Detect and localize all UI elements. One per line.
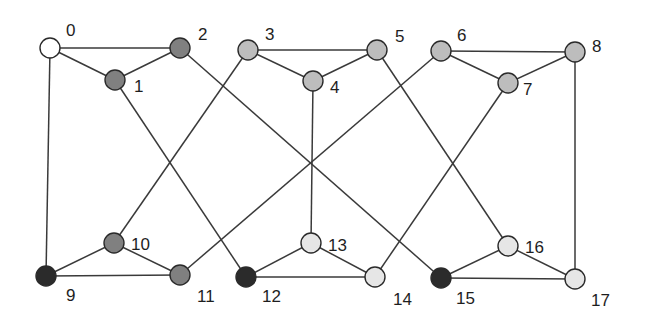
node-label-14: 14 — [393, 290, 412, 309]
node-13 — [301, 233, 321, 253]
node-3 — [238, 40, 258, 60]
node-9 — [36, 266, 56, 286]
node-label-11: 11 — [197, 287, 215, 306]
edge-1-2 — [115, 48, 180, 80]
node-label-3: 3 — [265, 25, 274, 44]
node-label-5: 5 — [395, 27, 404, 46]
node-15 — [431, 268, 451, 288]
edge-12-13 — [246, 243, 311, 277]
edge-6-7 — [441, 51, 508, 83]
edge-7-14 — [375, 83, 508, 277]
node-label-12: 12 — [262, 287, 281, 306]
node-17 — [565, 269, 585, 289]
node-12 — [236, 267, 256, 287]
node-label-6: 6 — [457, 26, 466, 45]
node-14 — [365, 267, 385, 287]
edge-15-17 — [441, 278, 575, 279]
node-6 — [431, 41, 451, 61]
node-4 — [303, 71, 323, 91]
node-2 — [170, 38, 190, 58]
node-label-4: 4 — [330, 78, 339, 97]
edge-15-16 — [441, 246, 508, 278]
edge-0-9 — [46, 48, 50, 276]
node-10 — [104, 233, 124, 253]
node-0 — [40, 38, 60, 58]
edge-6-8 — [441, 51, 575, 52]
edge-9-11 — [46, 275, 180, 276]
edge-0-1 — [50, 48, 115, 80]
edge-7-8 — [508, 52, 575, 83]
edge-9-10 — [46, 243, 114, 276]
node-label-17: 17 — [591, 291, 610, 310]
edge-5-16 — [377, 50, 508, 246]
node-label-13: 13 — [328, 236, 347, 255]
node-label-8: 8 — [592, 37, 601, 56]
node-label-7: 7 — [523, 80, 532, 99]
node-7 — [498, 73, 518, 93]
node-label-15: 15 — [456, 289, 475, 308]
node-label-0: 0 — [66, 21, 75, 40]
graph-diagram: 01234567891011121314151617 — [0, 0, 646, 317]
node-label-16: 16 — [525, 238, 544, 257]
node-label-10: 10 — [131, 235, 150, 254]
node-8 — [565, 42, 585, 62]
node-1 — [105, 70, 125, 90]
node-16 — [498, 236, 518, 256]
node-11 — [170, 265, 190, 285]
node-5 — [367, 40, 387, 60]
edge-3-4 — [248, 50, 313, 81]
node-label-1: 1 — [134, 77, 143, 96]
node-label-2: 2 — [198, 25, 207, 44]
node-label-9: 9 — [66, 286, 75, 305]
